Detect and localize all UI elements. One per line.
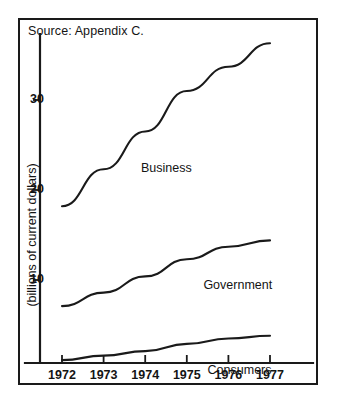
series-line-consumers xyxy=(62,336,270,360)
series-label-consumers: Consumers xyxy=(208,363,272,377)
y-axis-title: (billions of current dollars) xyxy=(25,140,39,330)
series-line-government xyxy=(62,240,270,306)
x-tick-label: 1972 xyxy=(41,368,83,382)
plot-area xyxy=(0,0,337,403)
y-tick-label: 30 xyxy=(30,92,44,106)
series-label-government: Government xyxy=(203,278,272,292)
series-label-business: Business xyxy=(141,161,192,175)
x-tick-label: 1975 xyxy=(166,368,208,382)
x-tick-label: 1973 xyxy=(83,368,125,382)
x-tick-label: 1974 xyxy=(124,368,166,382)
series-line-business xyxy=(62,43,270,206)
chart-figure: Source: Appendix C. 10 20 30 (billions o… xyxy=(0,0,337,403)
